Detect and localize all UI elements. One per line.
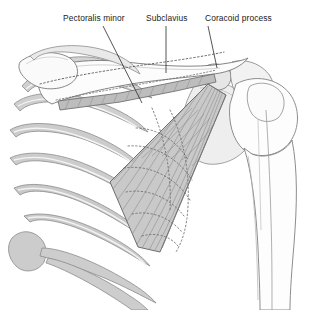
humerus — [230, 79, 298, 310]
anatomical-figure: Pectoralis minor Subclavius Coracoid pro… — [0, 0, 310, 310]
label-pectoralis-minor: Pectoralis minor — [63, 13, 125, 23]
label-coracoid-process: Coracoid process — [205, 13, 272, 23]
sternum-and-costal-cartilage — [9, 232, 156, 310]
anatomy-illustration: Pectoralis minor Subclavius Coracoid pro… — [0, 0, 310, 310]
leader-line-coracoid-process — [208, 26, 217, 68]
label-subclavius: Subclavius — [146, 13, 188, 23]
labels: Pectoralis minor Subclavius Coracoid pro… — [63, 13, 272, 23]
